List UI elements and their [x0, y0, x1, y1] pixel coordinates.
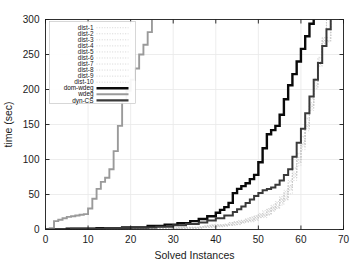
x-tick-label: 40	[210, 234, 222, 245]
chart-canvas: 010203040506070050100150200250300 Solved…	[0, 0, 357, 265]
y-tick-label: 150	[23, 119, 40, 130]
y-tick-label: 0	[34, 224, 40, 235]
x-tick-label: 20	[125, 234, 137, 245]
x-tick-label: 60	[295, 234, 307, 245]
y-tick-label: 200	[23, 84, 40, 95]
x-tick-label: 0	[43, 234, 49, 245]
x-axis-title: Solved Instances	[155, 249, 235, 261]
y-tick-label: 300	[23, 14, 40, 25]
legend-label-dyn-CS: dyn-CS	[72, 97, 93, 105]
x-tick-label: 50	[253, 234, 265, 245]
y-tick-label: 100	[23, 154, 40, 165]
chart-figure: 010203040506070050100150200250300 Solved…	[0, 0, 357, 265]
x-tick-label: 30	[168, 234, 180, 245]
x-tick-label: 10	[83, 234, 95, 245]
y-tick-label: 250	[23, 49, 40, 60]
y-tick-label: 50	[28, 189, 40, 200]
x-tick-label: 70	[338, 234, 350, 245]
chart-legend: dist-1dist-2dist-3dist-4dist-5dist-6dist…	[50, 22, 136, 105]
y-axis-title: time (sec)	[2, 101, 14, 147]
